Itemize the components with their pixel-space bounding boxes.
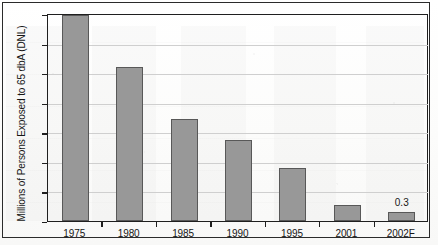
- bar-chart-figure: Millions of Persons Exposed to 65 dbA (D…: [0, 0, 438, 245]
- bar[interactable]: [62, 15, 89, 221]
- x-axis-ticks: 1975198019851990199520012002F: [47, 222, 428, 242]
- bar-slot: 0.3: [375, 15, 429, 221]
- bar[interactable]: [116, 67, 143, 221]
- x-tick-label: 1995: [281, 228, 303, 239]
- bar-slot: [211, 15, 265, 221]
- x-tick-mark: [156, 222, 157, 227]
- x-tick-label: 1990: [227, 228, 249, 239]
- bar-slot: [48, 15, 102, 221]
- x-tick-label: 2002F: [387, 228, 415, 239]
- bar-slot: [157, 15, 211, 221]
- bar-series: 0.3: [48, 15, 428, 221]
- x-tick-mark: [210, 222, 211, 227]
- bar-slot: [320, 15, 374, 221]
- bar[interactable]: [171, 119, 198, 221]
- bar-slot: [102, 15, 156, 221]
- x-tick-label: 1985: [172, 228, 194, 239]
- bar[interactable]: [388, 212, 415, 221]
- x-tick-mark: [374, 222, 375, 227]
- bar-slot: [266, 15, 320, 221]
- bar[interactable]: [279, 168, 306, 221]
- plot-area: 0.3: [47, 15, 428, 222]
- bar-value-label: 0.3: [395, 198, 409, 208]
- bar[interactable]: [225, 140, 252, 221]
- x-tick-mark: [101, 222, 102, 227]
- x-tick-label: 1980: [118, 228, 140, 239]
- y-axis-ticks: 0.01.02.03.04.05.06.07.0: [0, 0, 47, 245]
- bar[interactable]: [334, 205, 361, 221]
- x-tick-mark: [319, 222, 320, 227]
- x-tick-label: 1975: [63, 228, 85, 239]
- x-tick-label: 2001: [335, 228, 357, 239]
- x-tick-mark: [265, 222, 266, 227]
